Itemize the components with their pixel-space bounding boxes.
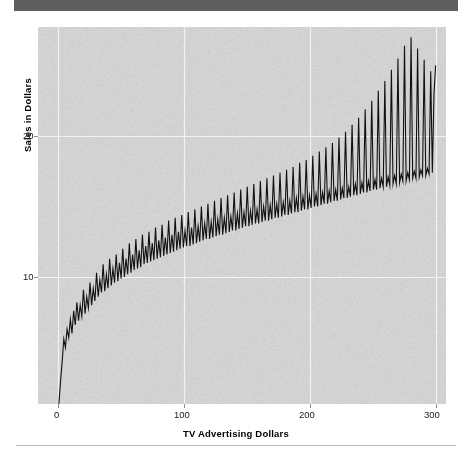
y-tick-label-20: 20 <box>23 130 34 141</box>
x-tick-label-300: 300 <box>424 409 440 420</box>
y-tick-label-10: 10 <box>23 271 34 282</box>
x-tick-label-200: 200 <box>299 409 315 420</box>
scatter-line-plot-canvas <box>0 0 472 457</box>
footer-divider <box>16 445 456 446</box>
chart-figure: Sales in Dollars TV Advertising Dollars … <box>0 0 472 457</box>
x-axis-title: TV Advertising Dollars <box>0 428 472 439</box>
x-tick-label-100: 100 <box>174 409 190 420</box>
x-tick-label-0: 0 <box>54 409 59 420</box>
